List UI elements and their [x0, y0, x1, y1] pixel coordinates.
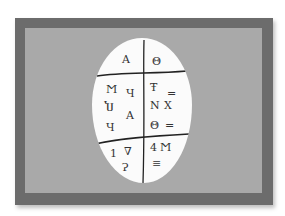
glyph: Ⴎ [104, 102, 114, 113]
glyph: Ϻ [106, 84, 117, 95]
glyph: A [122, 54, 130, 65]
gray-mat: A Θ Ϻ Ч Ⴎ A Ч Ŧ = Ν Χ Θ = 1 ∇ Ɂ 4 Ϻ ≡ [25, 28, 262, 193]
glyph: = [167, 88, 176, 99]
glyph: 4 [150, 142, 157, 153]
glyph: A [126, 110, 134, 121]
glyph: Ν [150, 100, 160, 111]
glyph: Ч [126, 88, 135, 99]
glyph: Χ [164, 100, 172, 111]
glyph: Θ [150, 120, 159, 131]
glyph: Ч [106, 122, 115, 133]
glyph: ∇ [124, 146, 132, 157]
glyph: Ɂ [122, 162, 128, 173]
glyph: Ϻ [160, 142, 171, 153]
glyph: 1 [110, 148, 117, 159]
glyph: Ŧ [150, 82, 157, 93]
picture-frame: A Θ Ϻ Ч Ⴎ A Ч Ŧ = Ν Χ Θ = 1 ∇ Ɂ 4 Ϻ ≡ [15, 18, 273, 205]
inscribed-tablet: A Θ Ϻ Ч Ⴎ A Ч Ŧ = Ν Χ Θ = 1 ∇ Ɂ 4 Ϻ ≡ [92, 38, 192, 183]
glyph: ≡ [152, 158, 161, 169]
glyph: = [165, 120, 174, 131]
glyph: Θ [152, 56, 161, 67]
